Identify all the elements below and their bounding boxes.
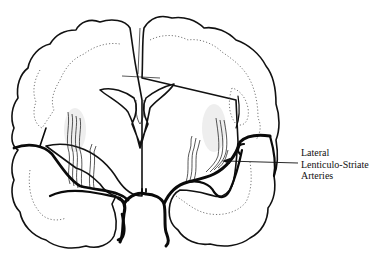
left-basal-ganglia-stipple [64,108,86,152]
label-line-3: Arteries [301,170,369,182]
lateral-lenticulo-striate-arteries-label: Lateral Lenticulo-Striate Arteries [301,147,369,182]
label-line-2: Lenticulo-Striate [301,159,369,171]
basilar-top-notch [142,189,146,192]
brain-coronal-section-diagram [0,0,383,261]
label-line-1: Lateral [301,147,369,159]
